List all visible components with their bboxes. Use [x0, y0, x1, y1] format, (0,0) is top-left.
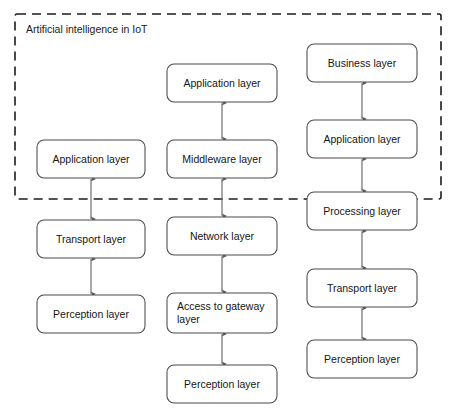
diagram-root: Artificial intelligence in IoT Applicati… — [0, 0, 456, 420]
layer-label-l-application: Application layer — [52, 153, 130, 165]
layer-label-r-processing: Processing layer — [323, 205, 401, 217]
layer-label-r-application: Application layer — [323, 133, 401, 145]
layer-label-l-transport: Transport layer — [56, 233, 127, 245]
layer-label-m-perception: Perception layer — [184, 378, 260, 390]
layer-boxes — [37, 44, 417, 403]
layer-label-l-perception: Perception layer — [53, 308, 129, 320]
layer-label-r-perception: Perception layer — [324, 353, 400, 365]
diagram-canvas: Artificial intelligence in IoT Applicati… — [0, 0, 456, 420]
layer-label-m-middleware: Middleware layer — [182, 153, 262, 165]
layer-label-r-business: Business layer — [328, 57, 397, 69]
layer-label-r-transport: Transport layer — [327, 282, 398, 294]
boundary-label: Artificial intelligence in IoT — [26, 23, 148, 35]
layer-label-m-network: Network layer — [190, 230, 255, 242]
layer-label-m-application: Application layer — [183, 77, 261, 89]
